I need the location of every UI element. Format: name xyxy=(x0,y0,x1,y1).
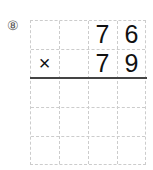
multiply-operator: × xyxy=(30,49,59,78)
answer-cell[interactable] xyxy=(88,79,117,108)
problem-number: ⑧ xyxy=(7,19,19,32)
multiplicand-digit-ones: 6 xyxy=(117,20,146,49)
answer-cell[interactable] xyxy=(59,79,88,108)
answer-cell[interactable] xyxy=(117,79,146,108)
multiplicand-digit-tens: 7 xyxy=(88,20,117,49)
multiplier-digit-ones: 9 xyxy=(117,49,146,78)
grid-line xyxy=(31,136,145,137)
multiplier-digit-tens: 7 xyxy=(88,49,117,78)
answer-cell[interactable] xyxy=(30,79,59,108)
